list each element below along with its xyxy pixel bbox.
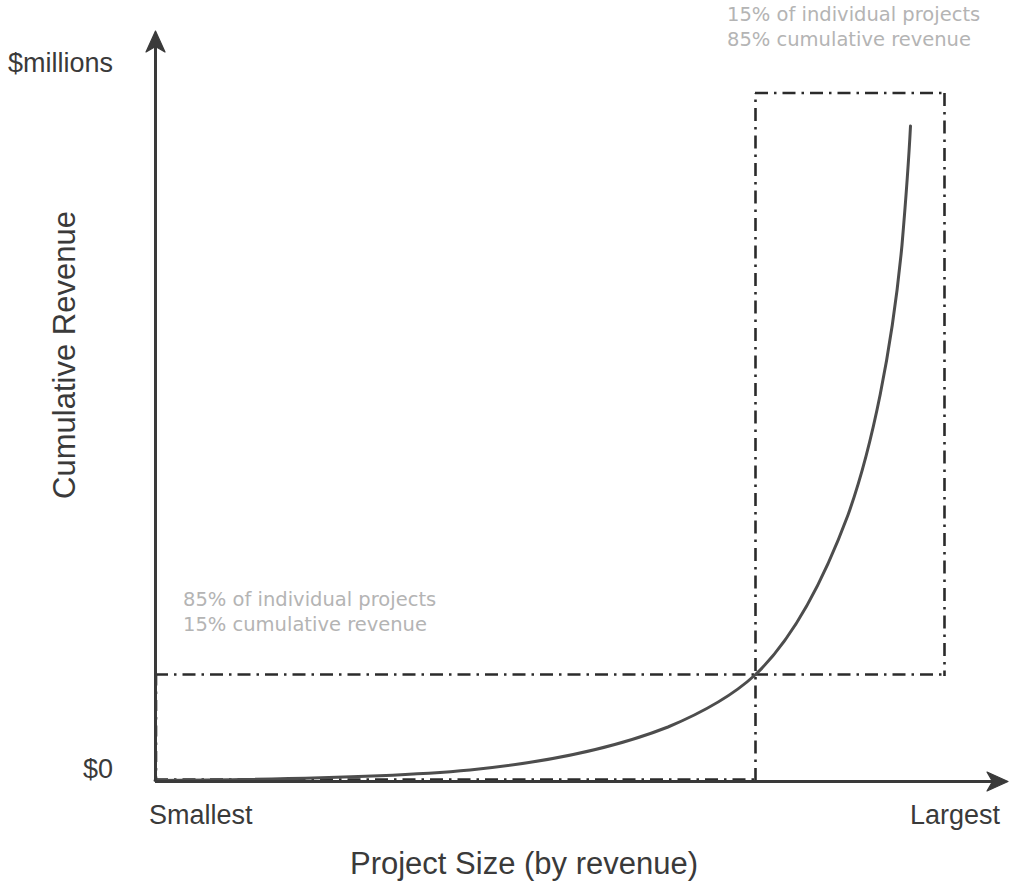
lower-left-annotation: 85% of individual projects 15% cumulativ…: [183, 588, 436, 636]
y-axis-title: Cumulative Revenue: [47, 211, 82, 499]
y-unit-label: $millions: [8, 48, 113, 78]
upper-right-region: [755, 93, 946, 676]
lower-left-annotation-line1: 85% of individual projects: [183, 588, 436, 611]
x-end-tick-label: Largest: [910, 800, 1001, 830]
y-axis: [146, 31, 165, 781]
x-start-tick-label: Smallest: [149, 800, 253, 830]
lower-left-annotation-line2: 15% cumulative revenue: [183, 613, 427, 636]
x-axis-title: Project Size (by revenue): [350, 846, 698, 881]
cumulative-revenue-chart: $millions $0 Cumulative Revenue Smallest…: [0, 0, 1019, 885]
chart-figure: $millions $0 Cumulative Revenue Smallest…: [0, 0, 1019, 885]
upper-right-annotation: 15% of individual projects 85% cumulativ…: [727, 3, 980, 51]
upper-right-annotation-line1: 15% of individual projects: [727, 3, 980, 26]
x-axis: [155, 772, 1008, 791]
upper-right-annotation-line2: 85% cumulative revenue: [727, 28, 971, 51]
cumulative-revenue-curve: [155, 126, 911, 781]
y-zero-tick-label: $0: [83, 754, 113, 784]
